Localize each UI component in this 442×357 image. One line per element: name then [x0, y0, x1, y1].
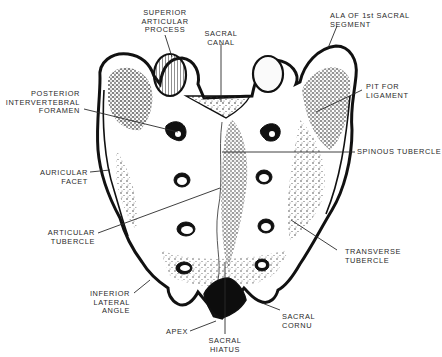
label-superior-articular-process: SUPERIOR ARTICULAR PROCESS	[124, 9, 206, 35]
label-inferior-lateral-angle: INFERIOR LATERAL ANGLE	[80, 290, 130, 316]
left-superior-articular-facet	[154, 54, 186, 96]
label-pit-for-ligament: PIT FOR LIGAMENT	[366, 83, 409, 100]
label-sacral-canal: SACRAL CANAL	[196, 30, 246, 47]
label-sacral-cornu: SACRAL CORNU	[282, 313, 315, 330]
label-posterior-intervertebral-foramen: POSTERIOR INTERVERTEBRAL FORAMEN	[4, 90, 80, 116]
label-transverse-tubercle: TRANSVERSE TUBERCLE	[345, 248, 401, 265]
label-spinous-tubercle: SPINOUS TUBERCLE	[357, 148, 441, 157]
right-superior-articular-facet	[253, 56, 283, 92]
label-apex: APEX	[150, 328, 188, 337]
label-sacral-hiatus: SACRAL HIATUS	[200, 337, 250, 354]
label-articular-tubercle: ARTICULAR TUBERCLE	[40, 229, 95, 246]
label-auricular-facet: AURICULAR FACET	[30, 169, 88, 186]
label-ala-of-1st-sacral-segment: ALA OF 1st SACRAL SEGMENT	[330, 12, 410, 29]
